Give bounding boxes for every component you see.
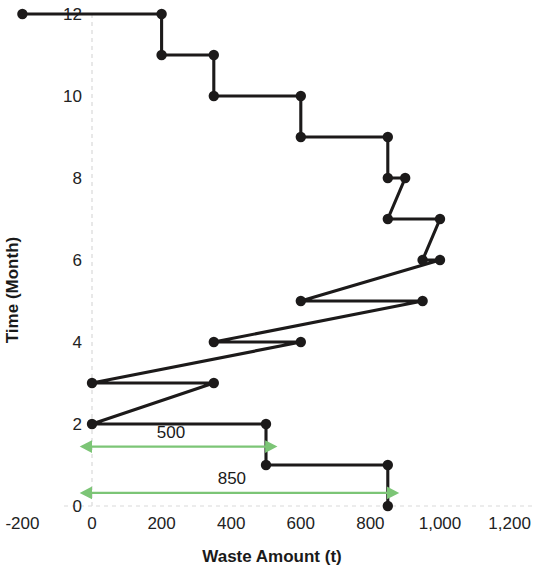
y-tick-label: 10 (63, 87, 82, 106)
step-data-point (296, 132, 306, 142)
y-tick-label: 2 (73, 415, 82, 434)
x-tick-label: 1,000 (419, 514, 462, 533)
x-tick-label: 200 (147, 514, 175, 533)
x-tick-label: 800 (356, 514, 384, 533)
dimension-annotations: 500850 (92, 423, 388, 493)
x-tick-label: 0 (87, 514, 96, 533)
x-axis-title: Waste Amount (t) (202, 547, 341, 566)
step-data-point (400, 173, 410, 183)
x-tick-label: -200 (5, 514, 39, 533)
y-axis-title: Time (Month) (3, 237, 22, 343)
y-tick-label: 0 (73, 497, 82, 516)
step-data-point (296, 296, 306, 306)
step-data-point (435, 255, 445, 265)
step-data-point (156, 9, 166, 19)
step-data-point (209, 50, 219, 60)
x-tick-label: 600 (287, 514, 315, 533)
step-data-point (383, 214, 393, 224)
step-data-point (383, 173, 393, 183)
x-axis-tick-labels: -20002004006008001,0001,200 (5, 514, 530, 533)
y-tick-label: 6 (73, 251, 82, 270)
y-tick-label: 4 (73, 333, 82, 352)
step-data-point (209, 91, 219, 101)
step-data-point (209, 337, 219, 347)
step-data-point (87, 419, 97, 429)
step-data-point (417, 296, 427, 306)
chart-canvas: 024681012 -20002004006008001,0001,200 50… (0, 0, 545, 569)
step-data-point (383, 501, 393, 511)
step-data-point (261, 460, 271, 470)
step-data-point (383, 460, 393, 470)
x-tick-label: 1,200 (488, 514, 531, 533)
dimension-label: 850 (218, 469, 246, 488)
y-tick-label: 8 (73, 169, 82, 188)
step-data-point (435, 214, 445, 224)
step-data-point (296, 91, 306, 101)
y-axis-tick-labels: 024681012 (63, 5, 82, 516)
dimension-label: 500 (157, 423, 185, 442)
step-data-point (156, 50, 166, 60)
step-data-point (261, 419, 271, 429)
gridlines (64, 14, 534, 506)
step-data-point (417, 255, 427, 265)
step-data-point (383, 132, 393, 142)
x-tick-label: 400 (217, 514, 245, 533)
step-data-point (17, 9, 27, 19)
step-chart: 024681012 -20002004006008001,0001,200 50… (0, 0, 545, 569)
step-data-point (209, 378, 219, 388)
step-data-point (87, 378, 97, 388)
step-data-point (296, 337, 306, 347)
step-line-path (22, 14, 440, 506)
